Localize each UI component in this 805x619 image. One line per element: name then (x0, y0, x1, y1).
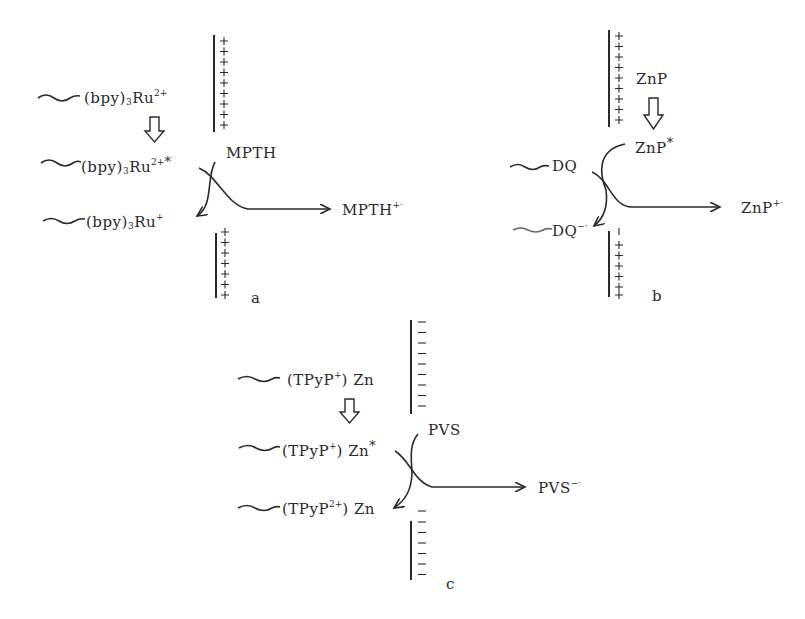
negative-charges-icon (418, 511, 426, 575)
wavy-chain-icon (38, 95, 80, 101)
species-excited-b: ZnP* (635, 136, 673, 156)
panel-letter-c: c (446, 577, 454, 592)
wavy-chain-icon (238, 506, 280, 511)
panel-b (510, 30, 720, 299)
acceptor-label-b: DQ (552, 159, 577, 174)
wavy-chain-icon (239, 446, 280, 451)
hollow-down-arrow-icon (145, 117, 164, 142)
product-label-a: MPTH+· (342, 201, 403, 218)
panel-letter-b: b (652, 289, 662, 304)
positive-charges-icon (615, 32, 623, 124)
species-excited-a: (bpy)3Ru2+* (81, 155, 171, 176)
membrane-top-a (214, 35, 228, 132)
positive-charges-icon (220, 37, 228, 129)
membrane-top-b (609, 30, 623, 127)
species-excited-c: (TPyP+) Zn* (282, 439, 376, 459)
species-oxidized-c: (TPyP2+) Zn (282, 500, 375, 517)
panel-letter-a: a (251, 291, 260, 306)
curved-electron-transfer-arrow-icon (592, 172, 720, 207)
species-reduced-a: (bpy)3Ru+ (86, 213, 164, 231)
wavy-chain-icon (510, 165, 549, 170)
species-ground-a: (bpy)3Ru2+ (84, 89, 167, 107)
membrane-bottom-c (411, 511, 426, 580)
hollow-down-arrow-icon (644, 98, 663, 129)
wavy-chain-icon (43, 219, 85, 224)
curved-electron-transfer-arrow-icon (594, 144, 625, 226)
wavy-chain-icon (41, 160, 81, 166)
curved-electron-transfer-arrow-icon (199, 168, 330, 209)
wavy-chain-icon (513, 228, 552, 232)
species-ground-b: ZnP (636, 72, 668, 87)
acceptor-label-c: PVS (428, 423, 461, 438)
product-label-c: PVS−· (538, 479, 581, 496)
membrane-top-c (411, 320, 426, 414)
hollow-down-arrow-icon (340, 399, 359, 423)
curved-electron-transfer-arrow-icon (395, 451, 525, 487)
positive-charges-icon (615, 228, 623, 299)
wavy-chain-icon (238, 377, 280, 382)
product-label-b: ZnP+· (741, 199, 783, 216)
acceptor-reduced-label-b: DQ−· (552, 222, 588, 239)
membrane-bottom-a (216, 228, 229, 299)
positive-charges-icon (221, 228, 229, 299)
donor-label-a: MPTH (226, 146, 277, 161)
curved-electron-transfer-arrow-icon (197, 162, 215, 216)
species-ground-c: (TPyP+) Zn (287, 371, 374, 388)
negative-charges-icon (418, 322, 426, 406)
membrane-bottom-b (609, 228, 623, 299)
curved-electron-transfer-arrow-icon (394, 434, 418, 508)
